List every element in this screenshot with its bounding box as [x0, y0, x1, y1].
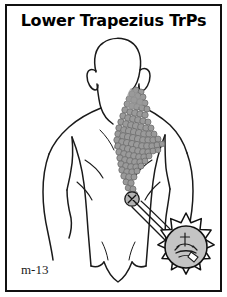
pain-dot: [148, 125, 154, 131]
magnifier-disc: [165, 226, 207, 268]
page-title: Lower Trapezius TrPs: [0, 11, 227, 30]
plate-code: m-13: [21, 262, 48, 278]
pain-dot: [142, 158, 148, 164]
starburst-icon: [158, 213, 214, 274]
pain-dot: [155, 147, 161, 153]
pain-dot: [146, 153, 152, 159]
scapula-line-left: [85, 160, 103, 178]
pain-dot: [144, 106, 150, 112]
pain-dot: [145, 119, 151, 125]
arm-left-outer: [43, 154, 53, 260]
pain-dot: [155, 136, 161, 142]
pain-dot: [151, 131, 157, 137]
lower-back-contour: [104, 262, 132, 282]
ear-left: [87, 70, 98, 90]
pain-dot: [131, 174, 137, 180]
illustration-plate: Lower Trapezius TrPs: [0, 0, 227, 297]
pain-dot: [138, 163, 144, 169]
torso-left-flank: [72, 137, 91, 266]
anatomy-illustration: [5, 4, 222, 292]
pain-dot: [142, 112, 148, 118]
pain-dot: [134, 168, 140, 174]
ear-right: [139, 69, 150, 91]
pain-dot: [159, 141, 165, 147]
